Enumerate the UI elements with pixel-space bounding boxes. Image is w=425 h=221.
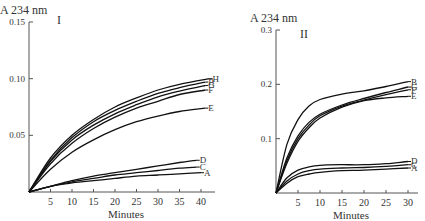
panel-I: A 234 nmI0.050.100.15510152025303540Minu… — [0, 3, 220, 220]
series-line-B — [29, 82, 205, 192]
x-tick-label: 15 — [89, 196, 99, 207]
x-tick-label: 10 — [67, 196, 77, 207]
series-line-G — [29, 86, 205, 193]
x-tick-label: 25 — [381, 197, 391, 208]
series-label-A: A — [411, 163, 418, 173]
y-tick-label: 0.05 — [9, 130, 25, 140]
y-tick-label: 0.15 — [9, 17, 25, 27]
series-line-E — [29, 108, 205, 192]
x-tick-label: 25 — [132, 196, 142, 207]
x-tick-label: 30 — [403, 197, 413, 208]
series-line-C — [29, 167, 197, 192]
series-line-D — [29, 160, 197, 192]
x-axis-label: Minutes — [108, 208, 144, 220]
x-tick-label: 20 — [110, 196, 120, 207]
x-tick-label: 10 — [315, 197, 325, 208]
y-axis-label: A 234 nm — [0, 3, 48, 17]
x-tick-label: 5 — [48, 196, 53, 207]
series-label-E: E — [411, 91, 417, 101]
y-axis-label: A 234 nm — [250, 11, 298, 25]
series-label-E: E — [208, 103, 214, 113]
series-line-E — [276, 96, 408, 193]
y-tick-label: 0.10 — [9, 74, 25, 84]
absorbance-charts: A 234 nmI0.050.100.15510152025303540Minu… — [0, 0, 425, 221]
x-tick-label: 15 — [337, 197, 347, 208]
x-tick-label: 30 — [153, 196, 163, 207]
x-tick-label: 35 — [175, 196, 185, 207]
x-tick-label: 40 — [196, 196, 206, 207]
series-label-F: F — [208, 85, 213, 95]
x-tick-label: 5 — [296, 197, 301, 208]
y-tick-label: 0.3 — [261, 25, 273, 35]
panel-label: I — [57, 13, 61, 27]
panel-label: II — [300, 27, 308, 41]
x-tick-label: 20 — [359, 197, 369, 208]
x-axis-label: Minutes — [333, 209, 369, 221]
panel-II: A 234 nmII0.10.20.351015202530MinutesBGF… — [250, 11, 418, 221]
series-label-A: A — [204, 168, 211, 178]
y-tick-label: 0.2 — [261, 79, 272, 89]
y-tick-label: 0.1 — [261, 134, 272, 144]
